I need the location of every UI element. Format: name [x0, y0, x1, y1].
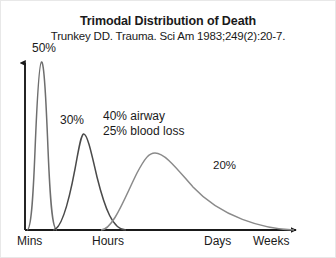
data-label-peak-2: 30% [60, 114, 84, 127]
chart-figure: Trimodal Distribution of Death Trunkey D… [0, 0, 336, 258]
x-tick-label-days: Days [204, 235, 231, 248]
data-label-peak-1: 50% [32, 42, 56, 55]
annotation-blood-loss: 25% blood loss [103, 125, 184, 138]
x-tick-label-hours: Hours [92, 235, 124, 248]
data-label-peak-3: 20% [213, 159, 236, 172]
curve-immediate-deaths [27, 62, 57, 230]
x-tick-label-mins: Mins [17, 235, 42, 248]
curve-late-deaths [101, 153, 294, 230]
annotation-airway: 40% airway [103, 110, 165, 123]
x-tick-label-weeks: Weeks [253, 235, 289, 248]
curve-early-deaths [53, 134, 126, 230]
chart-title: Trimodal Distribution of Death [1, 14, 335, 28]
